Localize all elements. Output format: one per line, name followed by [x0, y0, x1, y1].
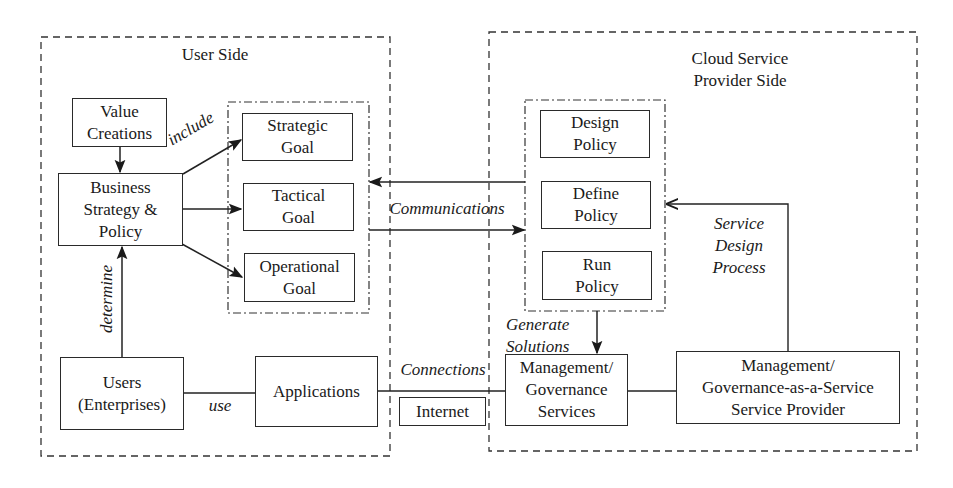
users-node: Users (Enterprises) — [60, 357, 184, 430]
run-policy-node: Run Policy — [542, 251, 652, 300]
generate-solutions-label: Generate Solutions — [506, 314, 590, 358]
arrow-strategy-operational — [182, 244, 242, 277]
mgmt-services-node: Management/ Governance Services — [505, 354, 628, 426]
applications-node: Applications — [255, 356, 378, 427]
strategic-goal-node: Strategic Goal — [242, 113, 353, 161]
service-design-process-label: Service Design Process — [694, 213, 784, 279]
user-side-title: User Side — [150, 44, 280, 66]
cloud-side-title: Cloud Service Provider Side — [660, 48, 820, 92]
use-label: use — [200, 395, 240, 417]
define-policy-node: Define Policy — [541, 181, 651, 229]
arrow-include-strategic — [183, 140, 241, 174]
communications-label: Communications — [374, 198, 520, 220]
design-policy-node: Design Policy — [540, 110, 650, 158]
mgaas-provider-node: Management/ Governance-as-a-Service Serv… — [676, 351, 900, 424]
business-strategy-node: Business Strategy & Policy — [58, 173, 183, 246]
connections-label: Connections — [390, 359, 496, 381]
determine-label: determine — [96, 254, 118, 344]
operational-goal-node: Operational Goal — [244, 253, 355, 302]
value-creations-node: Value Creations — [72, 98, 167, 147]
internet-node: Internet — [399, 397, 486, 426]
tactical-goal-node: Tactical Goal — [243, 183, 354, 231]
